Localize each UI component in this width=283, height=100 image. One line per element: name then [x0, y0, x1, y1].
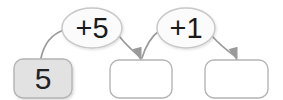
arrow-start-to-op1 [41, 30, 64, 58]
op-add-5[interactable]: +5 [62, 8, 122, 48]
op-add-1-label: +1 [169, 12, 202, 44]
box-middle[interactable] [110, 60, 172, 98]
arrow-path [41, 30, 64, 58]
box-end-shape[interactable] [205, 60, 268, 98]
arrow-op2-to-box3 [212, 36, 237, 60]
op-add-5-label: +5 [75, 12, 108, 44]
op-add-1[interactable]: +1 [157, 8, 215, 48]
arrowhead-icon [133, 47, 141, 60]
box-start[interactable]: 5 [14, 59, 72, 98]
counting-on-diagram: 5 +5 +1 [0, 0, 283, 100]
diagram-canvas: 5 +5 +1 [0, 0, 283, 100]
arrow-path [142, 31, 159, 58]
arrow-box2-to-op2 [142, 31, 159, 58]
box-start-value: 5 [35, 62, 52, 95]
box-middle-shape[interactable] [110, 60, 172, 98]
box-end[interactable] [205, 60, 268, 98]
arrow-op1-to-box2 [119, 36, 141, 60]
